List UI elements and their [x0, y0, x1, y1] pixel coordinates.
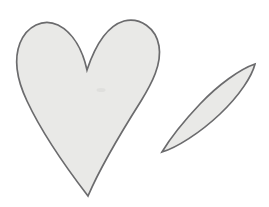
- shapes-drawing: [0, 0, 269, 207]
- illustration-canvas: [0, 0, 269, 207]
- pencil-smudge-mark: [97, 88, 106, 92]
